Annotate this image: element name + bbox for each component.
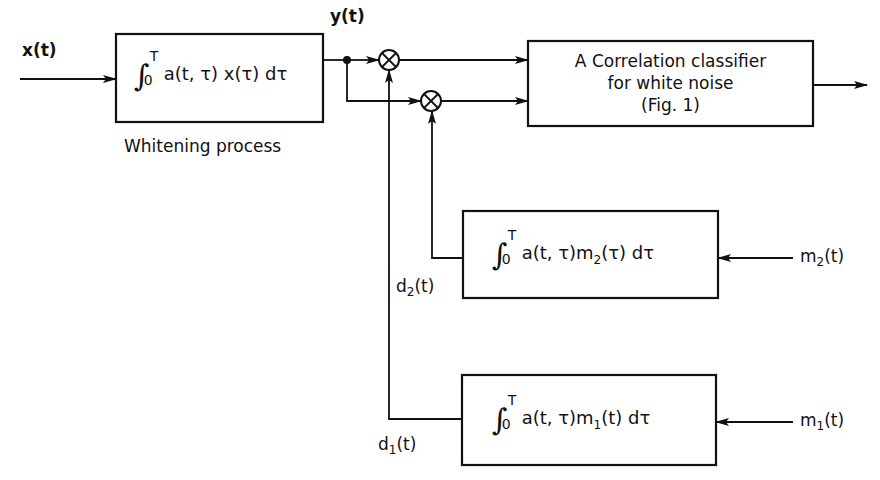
input-x-label: x(t) xyxy=(22,40,57,60)
whitening-formula: ∫T0a(t, τ) x(τ) dτ xyxy=(134,58,287,93)
m1-input-label: m1(t) xyxy=(800,410,844,433)
filter-m2-formula: ∫T0a(t, τ)m2(τ) dτ xyxy=(492,237,654,272)
branch-node xyxy=(343,56,351,64)
classifier-label: A Correlation classifier for white noise… xyxy=(528,50,813,116)
y-label: y(t) xyxy=(330,6,365,26)
whitening-caption: Whitening process xyxy=(124,136,281,156)
block-diagram: x(t) y(t) ∫T0a(t, τ) x(τ) dτ Whitening p… xyxy=(0,0,880,480)
m2-input-label: m2(t) xyxy=(800,246,844,269)
d2-label: d2(t) xyxy=(396,276,434,299)
filter-m1-formula: ∫T0a(t, τ)m1(t) dτ xyxy=(492,402,650,437)
d1-label: d1(t) xyxy=(378,434,416,457)
